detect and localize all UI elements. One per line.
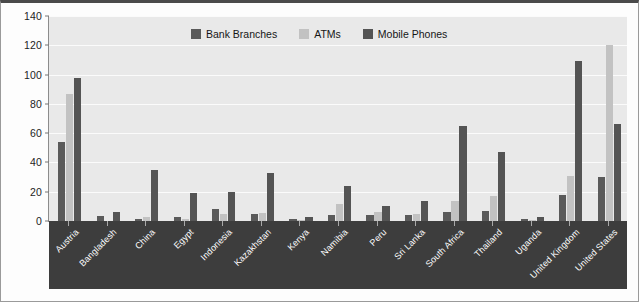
x-axis-tick-mark xyxy=(608,221,609,226)
x-axis-tick-label: Sri Lanka xyxy=(393,227,428,262)
bar-group xyxy=(203,16,242,221)
x-axis-tick-label: Indonesia xyxy=(199,227,234,262)
bar-group xyxy=(280,16,319,221)
bar-atms[interactable] xyxy=(374,212,381,221)
bar-mobile-phones[interactable] xyxy=(190,193,197,221)
x-axis-tick-label: Austria xyxy=(53,227,80,254)
chart-legend: Bank Branches ATMs Mobile Phones xyxy=(191,28,447,40)
bar-mobile-phones[interactable] xyxy=(228,192,235,221)
legend-swatch-mobile-phones xyxy=(363,29,373,39)
x-axis-tick-mark xyxy=(492,221,493,226)
bar-group xyxy=(165,16,204,221)
bar-group xyxy=(511,16,550,221)
legend-swatch-bank-branches xyxy=(191,29,201,39)
x-axis-tick-label: Kazakhstan xyxy=(232,227,273,268)
bar-mobile-phones[interactable] xyxy=(421,201,428,222)
x-axis-tick-mark xyxy=(184,221,185,226)
x-axis-tick-mark xyxy=(107,221,108,226)
x-axis-tick-label: Kenya xyxy=(286,227,311,252)
bar-atms[interactable] xyxy=(66,94,73,221)
x-axis-tick-label: China xyxy=(133,227,157,251)
y-axis-tick-label: 120 xyxy=(24,39,42,51)
bar-atms[interactable] xyxy=(451,201,458,221)
x-axis-tick-mark xyxy=(531,221,532,226)
bar-group xyxy=(396,16,435,221)
bar-bank-branches[interactable] xyxy=(251,214,258,221)
bar-group xyxy=(88,16,127,221)
x-axis-tick-mark xyxy=(415,221,416,226)
bar-group xyxy=(242,16,281,221)
y-axis-tick-label: 0 xyxy=(36,215,42,227)
x-axis-tick-label: Uganda xyxy=(513,227,543,257)
legend-swatch-atms xyxy=(299,29,309,39)
bar-bank-branches[interactable] xyxy=(482,211,489,221)
bar-mobile-phones[interactable] xyxy=(74,78,81,222)
bar-atms[interactable] xyxy=(259,213,266,221)
bar-group xyxy=(319,16,358,221)
legend-item-bank-branches[interactable]: Bank Branches xyxy=(191,28,277,40)
legend-label-mobile-phones: Mobile Phones xyxy=(378,28,447,40)
legend-label-bank-branches: Bank Branches xyxy=(206,28,277,40)
bar-mobile-phones[interactable] xyxy=(459,126,466,221)
bar-mobile-phones[interactable] xyxy=(151,170,158,221)
bar-mobile-phones[interactable] xyxy=(267,173,274,221)
bar-atms[interactable] xyxy=(413,214,420,221)
x-axis-tick-mark xyxy=(261,221,262,226)
bar-atms[interactable] xyxy=(490,196,497,221)
bar-bank-branches[interactable] xyxy=(443,212,450,221)
legend-item-atms[interactable]: ATMs xyxy=(299,28,341,40)
legend-label-atms: ATMs xyxy=(314,28,341,40)
bar-bank-branches[interactable] xyxy=(559,195,566,221)
x-axis-tick-mark xyxy=(338,221,339,226)
bar-series-container xyxy=(49,16,627,221)
bar-atms[interactable] xyxy=(220,214,227,221)
bar-group xyxy=(588,16,627,221)
bar-group xyxy=(473,16,512,221)
x-axis-tick-label: Thailand xyxy=(472,227,504,259)
x-axis-tick-label: Egypt xyxy=(172,227,196,251)
y-axis: 020406080100120140 xyxy=(1,16,49,221)
y-axis-tick-label: 80 xyxy=(30,98,42,110)
bar-group xyxy=(357,16,396,221)
x-axis-tick-label: Bangladesh xyxy=(77,227,118,268)
x-axis-tick-mark xyxy=(145,221,146,226)
y-axis-tick-label: 60 xyxy=(30,127,42,139)
x-axis-tick-mark xyxy=(299,221,300,226)
bar-mobile-phones[interactable] xyxy=(498,152,505,221)
bar-group xyxy=(126,16,165,221)
legend-item-mobile-phones[interactable]: Mobile Phones xyxy=(363,28,447,40)
x-axis-tick-mark xyxy=(454,221,455,226)
y-axis-tick-label: 40 xyxy=(30,156,42,168)
category-axis-band: AustriaBangladeshChinaEgyptIndonesiaKaza… xyxy=(49,221,627,289)
x-axis-tick-mark xyxy=(222,221,223,226)
bar-group xyxy=(550,16,589,221)
x-axis-tick-mark xyxy=(569,221,570,226)
bar-bank-branches[interactable] xyxy=(58,142,65,221)
y-axis-tick-label: 20 xyxy=(30,186,42,198)
bar-bank-branches[interactable] xyxy=(212,209,219,221)
bar-mobile-phones[interactable] xyxy=(344,186,351,221)
bar-mobile-phones[interactable] xyxy=(614,124,621,221)
bar-mobile-phones[interactable] xyxy=(575,61,582,221)
bar-bank-branches[interactable] xyxy=(598,177,605,221)
bar-atms[interactable] xyxy=(336,204,343,221)
bar-group xyxy=(434,16,473,221)
x-axis-tick-label: Namibia xyxy=(319,227,350,258)
bar-mobile-phones[interactable] xyxy=(113,212,120,221)
bar-atms[interactable] xyxy=(567,176,574,221)
x-axis-tick-mark xyxy=(377,221,378,226)
bar-mobile-phones[interactable] xyxy=(382,206,389,221)
chart-figure: 020406080100120140 AustriaBangladeshChin… xyxy=(0,0,639,302)
x-axis-tick-mark xyxy=(68,221,69,226)
x-axis-tick-label: Peru xyxy=(368,227,389,248)
bar-group xyxy=(49,16,88,221)
y-axis-tick-label: 100 xyxy=(24,69,42,81)
bar-atms[interactable] xyxy=(606,45,613,221)
y-axis-tick-label: 140 xyxy=(24,10,42,22)
x-axis-tick-label: South Africa xyxy=(423,227,465,269)
